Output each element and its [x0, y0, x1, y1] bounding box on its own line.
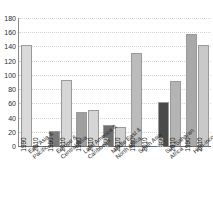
y-tick-label: 80 [8, 86, 16, 93]
x-axis: East Asia & PacificEurope & Central Asia… [19, 148, 211, 202]
y-tick-label: 20 [8, 128, 16, 135]
y-tick-label: 120 [4, 57, 16, 64]
y-tick-label: 160 [4, 29, 16, 36]
y-tick-label: 40 [8, 114, 16, 121]
y-tick-label: 140 [4, 43, 16, 50]
bar-east-asia-pacific-1990: 1990 [21, 45, 32, 146]
bar-chart: 180160140120100806040200 199020101990201… [0, 0, 213, 202]
y-tick-label: 0 [12, 143, 16, 150]
bar-group-east-asia-pacific: 19902010 [19, 18, 46, 146]
y-tick-label: 60 [8, 100, 16, 107]
y-tick-label: 100 [4, 71, 16, 78]
y-tick-label: 180 [4, 15, 16, 22]
y-axis: 180160140120100806040200 [0, 0, 17, 148]
